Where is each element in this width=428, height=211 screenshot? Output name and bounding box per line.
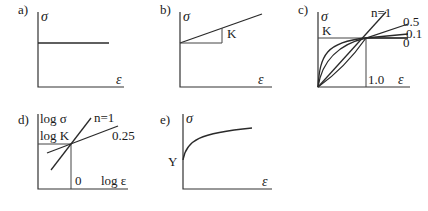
- panel-a-y-axis-label: σ: [41, 9, 49, 24]
- panel-c-k-label: K: [322, 23, 332, 38]
- panel-b-y-axis-label: σ: [183, 9, 191, 24]
- panel-c-curve-n05: [318, 24, 408, 87]
- panel-b-label: b): [160, 2, 171, 17]
- panel-d-x-axis-label: log ε: [101, 173, 127, 188]
- panel-b-x-axis-label: ε: [258, 72, 264, 87]
- panel-a: a) σ ε: [18, 2, 124, 87]
- panel-c-curve-label-0: 0: [403, 35, 410, 50]
- panel-c-x-axis-label: ε: [398, 72, 404, 87]
- panel-d-label: d): [18, 112, 29, 127]
- panel-a-x-axis-label: ε: [116, 72, 122, 87]
- panel-d-curve-label-n1: n=1: [94, 110, 114, 125]
- panel-e-label: e): [160, 112, 170, 127]
- stress-strain-diagram: a) σ ε b) σ K ε c) σ K n=1 0.5 0.1 0: [0, 0, 428, 211]
- panel-d-logk-label: log K: [40, 128, 70, 143]
- panel-d-y-axis-label: log σ: [40, 111, 67, 126]
- panel-a-label: a): [18, 2, 28, 17]
- panel-a-axes: [38, 12, 124, 87]
- panel-e-axes: [183, 114, 272, 189]
- panel-c-curve-label-n1: n=1: [371, 5, 391, 20]
- panel-c-y-axis-label: σ: [321, 9, 329, 24]
- panel-c: c) σ K n=1 0.5 0.1 0 1.0 ε: [298, 2, 422, 87]
- panel-c-label: c): [298, 2, 308, 17]
- panel-e-hardening-curve: [183, 128, 252, 160]
- panel-b-hardening-line: [180, 14, 262, 43]
- panel-e-x-axis-label: ε: [262, 174, 268, 189]
- panel-e-yield-label: Y: [168, 154, 178, 169]
- panel-b: b) σ K ε: [160, 2, 272, 87]
- panel-b-slope-label: K: [227, 26, 237, 41]
- panel-e-y-axis-label: σ: [186, 111, 194, 126]
- panel-d-curve-label-025: 0.25: [112, 128, 135, 143]
- panel-d: d) log σ log K n=1 0.25 0 log ε: [18, 110, 135, 189]
- panel-d-x-tick-label: 0: [75, 173, 82, 188]
- panel-c-x-tick-label: 1.0: [368, 72, 384, 87]
- panel-e: e) σ Y ε: [160, 111, 272, 189]
